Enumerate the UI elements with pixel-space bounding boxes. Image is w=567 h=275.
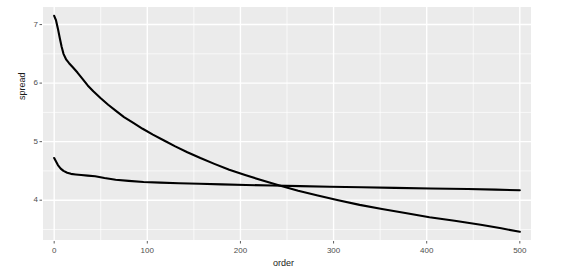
x-tick-label-0: 0 [34,246,74,255]
y-tick-label-7: 7 [3,20,38,29]
y-tick-label-5: 5 [3,137,38,146]
x-tick-label-500: 500 [500,246,540,255]
chart-root: 4567 0100200300400500 spread order [0,0,567,275]
x-axis-title: order [0,258,567,268]
x-tick-label-100: 100 [127,246,167,255]
y-axis-title: spread [17,72,27,100]
plot-panel [0,0,567,275]
y-tick-label-4: 4 [3,195,38,204]
x-tick-label-200: 200 [220,246,260,255]
x-tick-label-400: 400 [407,246,447,255]
x-tick-label-300: 300 [314,246,354,255]
